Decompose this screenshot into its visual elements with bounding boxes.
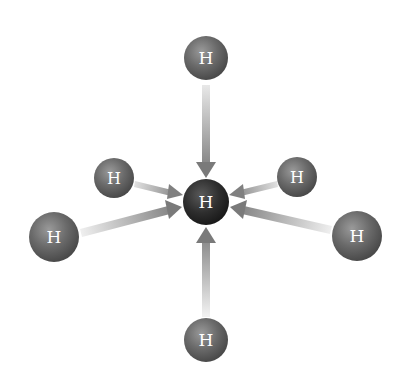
atom-label: H bbox=[199, 330, 214, 350]
atom-label: H bbox=[199, 192, 214, 212]
arrow-top-to-center bbox=[196, 85, 216, 178]
arrow-upper-left-to-center bbox=[134, 181, 183, 199]
arrow-right-to-center bbox=[230, 200, 332, 234]
arrow-upper-right-to-center bbox=[229, 181, 278, 199]
atom-top: H bbox=[184, 36, 228, 80]
atom-upper-right: H bbox=[277, 157, 317, 197]
arrow-left-to-center bbox=[80, 200, 182, 237]
atom-upper-left: H bbox=[94, 158, 134, 198]
atom-label: H bbox=[290, 168, 304, 187]
atom-right: H bbox=[332, 211, 382, 261]
atom-center: H bbox=[183, 179, 229, 225]
atom-label: H bbox=[350, 226, 365, 246]
atom-bottom: H bbox=[184, 318, 228, 362]
atom-left: H bbox=[29, 212, 79, 262]
arrow-bottom-to-center bbox=[196, 227, 216, 317]
atom-label: H bbox=[107, 169, 121, 188]
hydrogen-interaction-diagram: H H H H H H H bbox=[0, 0, 404, 387]
atom-label: H bbox=[199, 48, 214, 68]
atom-label: H bbox=[47, 227, 62, 247]
